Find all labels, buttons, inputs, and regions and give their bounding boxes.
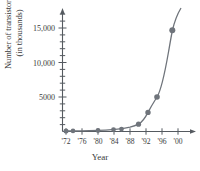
x-tick-label-88: '88: [126, 137, 135, 146]
data-point-1985: [119, 127, 124, 132]
data-point-1979: [96, 128, 101, 133]
y-tick-label-15000: 15,000: [33, 24, 55, 33]
data-point-1983: [111, 127, 116, 132]
data-point-1974: [71, 129, 76, 134]
x-tick-label-84: '84: [110, 137, 119, 146]
x-tick-label-72: '72: [62, 137, 71, 146]
y-axis: 5000 10,000 15,000: [33, 8, 67, 132]
transistor-trend-line: [66, 8, 181, 131]
y-axis-arrow-icon: [60, 8, 65, 14]
x-axis-arrow-icon: [190, 129, 196, 134]
x-tick-label-92: '92: [142, 137, 151, 146]
x-tick-label-00: '00: [174, 137, 183, 146]
data-point-1994: [154, 94, 160, 100]
x-tick-label-96: '96: [158, 137, 167, 146]
data-point-1972: [64, 129, 69, 134]
x-tick-label-76: '76: [78, 137, 87, 146]
data-point-1997: [169, 27, 175, 33]
data-point-markers: [64, 27, 176, 133]
y-tick-label-5000: 5000: [39, 93, 55, 102]
data-point-1992: [145, 110, 150, 115]
x-axis-title: Year: [0, 152, 200, 162]
transistor-count-chart: Number of transistors (in thousands): [0, 0, 200, 171]
data-point-1989: [136, 122, 141, 127]
y-tick-label-10000: 10,000: [33, 59, 55, 68]
chart-canvas: 5000 10,000 15,000 '72 '76 '80 '84 '88: [0, 0, 200, 171]
x-tick-label-80: '80: [94, 137, 103, 146]
